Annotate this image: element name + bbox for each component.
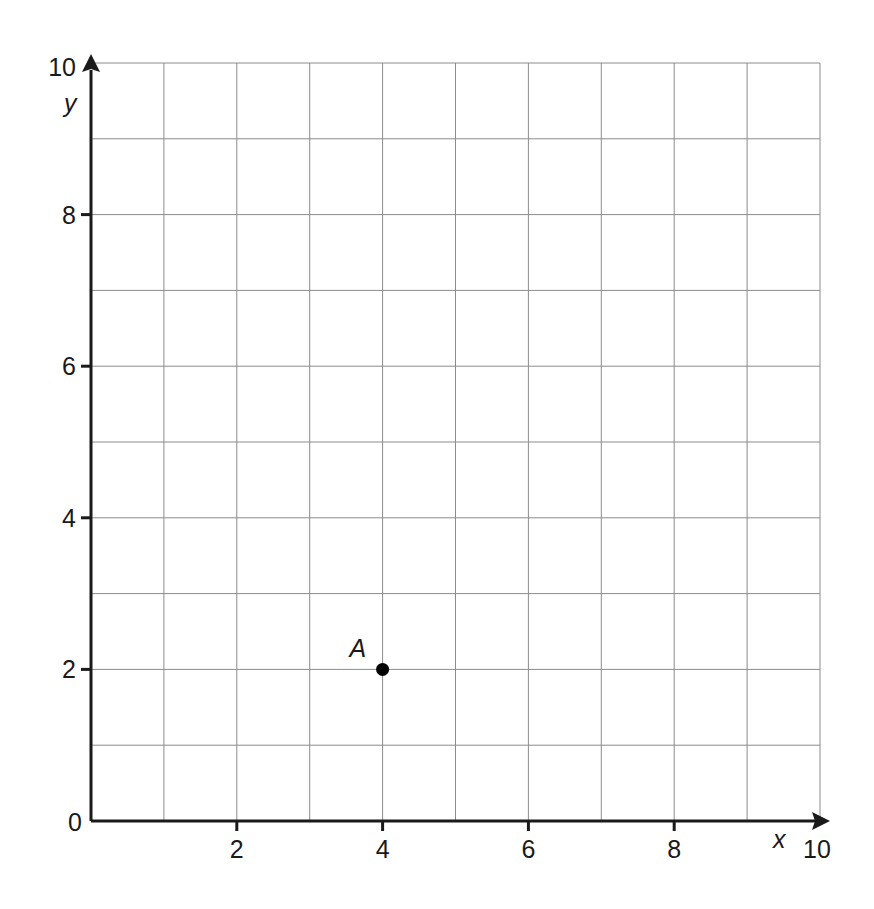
point-label: A (348, 634, 367, 662)
grid-lines (91, 63, 820, 821)
x-tick-label: 10 (803, 835, 831, 863)
x-tick-label: 2 (230, 835, 244, 863)
tick-labels: 2468100246810 (48, 53, 831, 863)
y-axis-label: y (62, 89, 78, 117)
x-tick-label: 4 (376, 835, 390, 863)
y-tick-label: 4 (62, 504, 76, 532)
x-tick-label: 6 (521, 835, 535, 863)
y-tick-label: 2 (62, 655, 76, 683)
coordinate-grid-chart: 2468100246810 y x A (0, 0, 874, 909)
x-axis-label: x (772, 825, 787, 853)
x-tick-label: 8 (667, 835, 681, 863)
y-tick-label: 0 (68, 808, 82, 836)
y-tick-label: 6 (62, 352, 76, 380)
tick-marks (81, 215, 674, 831)
y-tick-label: 8 (62, 201, 76, 229)
point-A (376, 663, 389, 676)
y-tick-label: 10 (48, 53, 76, 81)
